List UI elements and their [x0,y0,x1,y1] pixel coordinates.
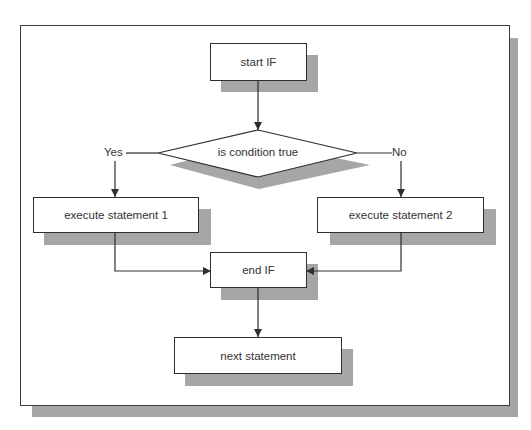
execute-statement-2-label: execute statement 2 [349,209,453,221]
next-statement-box: next statement [174,337,342,374]
execute-statement-1-label: execute statement 1 [64,209,168,221]
end-if-label: end IF [242,264,275,276]
next-statement-label: next statement [220,350,295,362]
execute-statement-1-box: execute statement 1 [33,197,199,233]
start-if-label: start IF [241,56,277,68]
yes-branch-label: Yes [104,147,123,159]
start-if-box: start IF [210,43,307,81]
arrow-stmt2-to-end [306,233,401,271]
no-branch-label: No [392,147,407,159]
condition-label: is condition true [208,147,308,159]
flowchart-canvas: start IF is condition true Yes No execut… [0,0,531,430]
execute-statement-2-box: execute statement 2 [317,197,484,233]
end-if-box: end IF [210,252,307,288]
arrow-stmt1-to-end [115,233,211,271]
